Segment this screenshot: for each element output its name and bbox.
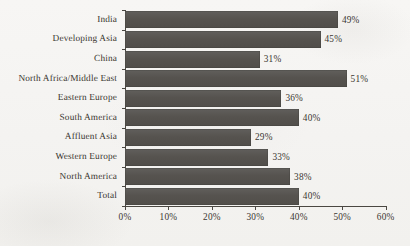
- x-axis-tick-label: 50%: [333, 212, 351, 223]
- x-axis-tick-label: 30%: [247, 212, 265, 223]
- bar[interactable]: [125, 149, 268, 166]
- bar-row[interactable]: 40%: [125, 188, 339, 205]
- bar[interactable]: [125, 31, 321, 48]
- bar[interactable]: [125, 129, 251, 146]
- bar-value-label: 45%: [325, 34, 343, 44]
- bar[interactable]: [125, 70, 347, 87]
- x-axis-tick-label: 60%: [377, 212, 395, 223]
- horizontal-bar-chart: IndiaDeveloping AsiaChinaNorth Africa/Mi…: [0, 0, 410, 246]
- plot-area: 49%45%31%51%36%40%29%33%38%40%0%10%20%30…: [125, 0, 410, 246]
- x-axis-tick-label: 0%: [119, 212, 132, 223]
- category-label: Total: [0, 191, 117, 201]
- x-axis-tick-label: 20%: [203, 212, 221, 223]
- category-label: India: [0, 15, 117, 25]
- category-label: South America: [0, 113, 117, 123]
- bar-value-label: 38%: [294, 172, 312, 182]
- bar[interactable]: [125, 51, 260, 68]
- bar-row[interactable]: 36%: [125, 90, 321, 107]
- x-axis-tick: [386, 207, 387, 210]
- bar-row[interactable]: 49%: [125, 11, 378, 28]
- x-axis-tick: [212, 207, 213, 210]
- category-label: North Africa/Middle East: [0, 74, 117, 84]
- x-axis-tick: [299, 207, 300, 210]
- bar-row[interactable]: 29%: [125, 129, 291, 146]
- bar-value-label: 31%: [264, 54, 282, 64]
- x-axis-tick-label: 10%: [160, 212, 178, 223]
- bar-value-label: 40%: [303, 191, 321, 201]
- x-axis-tick: [342, 207, 343, 210]
- bar-value-label: 33%: [272, 152, 290, 162]
- bar-value-label: 51%: [351, 74, 369, 84]
- category-label: North America: [0, 172, 117, 182]
- bar[interactable]: [125, 109, 299, 126]
- category-axis-labels: IndiaDeveloping AsiaChinaNorth Africa/Mi…: [0, 0, 122, 246]
- x-axis-tick: [168, 207, 169, 210]
- x-axis-tick-label: 40%: [290, 212, 308, 223]
- bar-row[interactable]: 33%: [125, 149, 308, 166]
- bar-value-label: 29%: [255, 132, 273, 142]
- bar-value-label: 40%: [303, 113, 321, 123]
- bar-value-label: 49%: [342, 15, 360, 25]
- bar[interactable]: [125, 188, 299, 205]
- category-label: Developing Asia: [0, 34, 117, 44]
- category-label: Affluent Asia: [0, 132, 117, 142]
- x-axis-tick: [255, 207, 256, 210]
- category-label: China: [0, 54, 117, 64]
- bar-row[interactable]: 45%: [125, 31, 361, 48]
- x-axis-tick: [125, 207, 126, 210]
- bar[interactable]: [125, 90, 281, 107]
- bar-row[interactable]: 51%: [125, 70, 387, 87]
- bar[interactable]: [125, 11, 338, 28]
- bar-value-label: 36%: [285, 93, 303, 103]
- category-label: Western Europe: [0, 152, 117, 162]
- bar-row[interactable]: 31%: [125, 51, 300, 68]
- bar-row[interactable]: 40%: [125, 109, 339, 126]
- category-label: Eastern Europe: [0, 93, 117, 103]
- bar[interactable]: [125, 168, 290, 185]
- bar-row[interactable]: 38%: [125, 168, 330, 185]
